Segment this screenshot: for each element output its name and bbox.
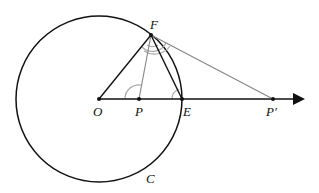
point-pprime [271, 97, 275, 101]
label-f: F [149, 17, 159, 32]
arrowhead-icon [293, 93, 305, 105]
label-pprime: P′ [265, 104, 277, 119]
geometry-diagram: O P E P′ F C [0, 0, 319, 193]
point-f [149, 33, 153, 37]
segment-pf [139, 35, 151, 99]
segment-of [99, 35, 151, 99]
label-p: P [134, 104, 143, 119]
label-e: E [182, 104, 191, 119]
angle-marks [125, 43, 179, 99]
label-c: C [146, 171, 155, 186]
label-o: O [93, 104, 103, 119]
point-o [97, 97, 101, 101]
points [97, 33, 275, 101]
point-e [180, 97, 184, 101]
point-p [137, 97, 141, 101]
segment-pprime-f [151, 35, 273, 99]
segment-ef [151, 35, 182, 99]
